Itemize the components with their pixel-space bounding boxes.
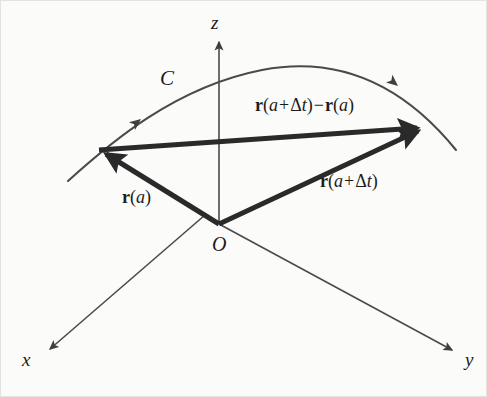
vector-r-a-plus-delta-t-line [219, 131, 418, 224]
difference-close-paren-1: ) [307, 95, 313, 115]
difference-bold-r-1: r [255, 95, 263, 115]
axis-group [50, 42, 452, 350]
rat-arg-a: a [334, 171, 343, 191]
rat-close-paren: ) [372, 171, 378, 191]
x-axis-line [50, 215, 205, 349]
r-a-plus-delta-t-label: r(a+Δt) [320, 172, 378, 190]
difference-bold-r-2: r [325, 95, 333, 115]
difference-arg-a-1: a [269, 95, 278, 115]
vector-curve-figure: z x y O C r(a+Δt)−r(a) r(a+Δt) r(a) [0, 0, 487, 397]
origin-label: O [212, 234, 226, 254]
difference-arg-a-2: a [339, 95, 348, 115]
rat-delta: Δ [355, 171, 367, 191]
y-axis-line [219, 224, 452, 350]
difference-plus: + [278, 95, 290, 115]
ra-close-paren: ) [145, 187, 151, 207]
ra-bold-r: r [122, 187, 130, 207]
r-a-label: r(a) [122, 188, 151, 206]
curve-direction-arrow-right [386, 75, 401, 90]
ra-arg: a [136, 187, 145, 207]
difference-close-paren-2: ) [348, 95, 354, 115]
difference-delta: Δ [290, 95, 302, 115]
vector-difference-line [99, 128, 417, 150]
rat-plus: + [343, 171, 355, 191]
curve-label: C [160, 68, 174, 89]
diagram-canvas [0, 0, 487, 397]
difference-minus: − [313, 95, 325, 115]
z-axis-label: z [211, 13, 218, 32]
x-axis-label: x [22, 350, 30, 369]
difference-vector-label: r(a+Δt)−r(a) [255, 96, 354, 114]
y-axis-label: y [465, 350, 473, 369]
rat-bold-r: r [320, 171, 328, 191]
